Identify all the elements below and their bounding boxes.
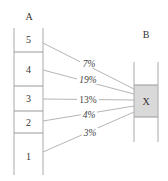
- flow-value-4: 19%: [79, 75, 97, 85]
- target-box-label: X: [142, 96, 150, 107]
- flow-value-3: 13%: [79, 95, 97, 105]
- column-b-label: B: [143, 29, 150, 40]
- cell-2-label: 2: [26, 117, 31, 128]
- flow-value-5: 7%: [83, 59, 96, 69]
- cell-5-label: 5: [26, 34, 31, 45]
- cell-1-label: 1: [26, 151, 31, 162]
- flow-value-2: 4%: [83, 110, 96, 120]
- flow-value-1: 3%: [83, 128, 97, 138]
- flow-diagram: A 5 4 3 2 1 B X 7% 19% 13% 4% 3%: [0, 0, 168, 181]
- cell-3-label: 3: [26, 93, 31, 104]
- column-a-label: A: [25, 11, 33, 22]
- cell-4-label: 4: [26, 64, 31, 75]
